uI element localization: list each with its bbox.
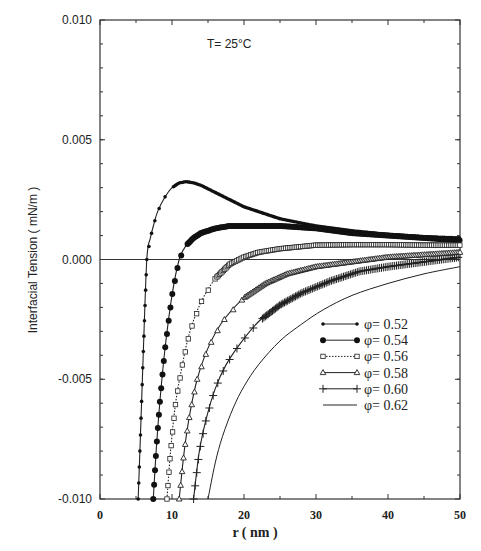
y-tick-label: 0.010 — [62, 13, 92, 27]
x-tick-label: 30 — [310, 508, 322, 522]
legend-label: φ= 0.62 — [364, 398, 408, 413]
legend-label: φ= 0.60 — [364, 382, 408, 397]
x-axis-title: r ( nm ) — [232, 525, 278, 541]
y-tick-label: -0.010 — [58, 492, 92, 506]
legend-label: φ= 0.56 — [364, 349, 408, 364]
legend-label: φ= 0.54 — [364, 333, 408, 348]
legend-label: φ= 0.52 — [364, 317, 408, 332]
y-axis-title: Interfacial Tension ( mN/m ) — [26, 187, 40, 334]
y-tick-label: 0.000 — [62, 253, 92, 267]
x-tick-label: 0 — [97, 508, 103, 522]
legend-label: φ= 0.58 — [364, 366, 408, 381]
x-tick-label: 10 — [166, 508, 178, 522]
x-tick-label: 40 — [382, 508, 394, 522]
chart: 010203040500.0100.0050.000-0.005-0.010 T… — [0, 0, 481, 551]
x-tick-label: 50 — [454, 508, 466, 522]
y-tick-label: -0.005 — [58, 372, 92, 386]
x-tick-label: 20 — [238, 508, 250, 522]
temperature-annotation: T= 25°C — [207, 37, 252, 51]
y-tick-label: 0.005 — [62, 133, 92, 147]
